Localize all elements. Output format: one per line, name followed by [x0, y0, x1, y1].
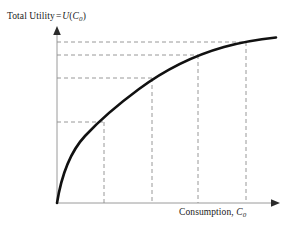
y-axis-label-close-paren: ) [83, 11, 86, 21]
utility-curve [57, 38, 276, 204]
y-axis-label-prefix: Total Utility [7, 11, 55, 21]
chart-figure: Total Utility=U(C0) Consumption, C0 [0, 0, 287, 226]
x-axis-arrow-icon [271, 199, 280, 207]
y-axis-label: Total Utility=U(C0) [7, 11, 86, 23]
x-axis-label-var-subscript: 0 [243, 211, 247, 219]
y-axis-arrow-icon [53, 26, 61, 35]
dashed-guides-horizontal [57, 42, 246, 122]
utility-curve-plot [0, 0, 287, 226]
axes-group [53, 26, 280, 207]
x-axis-label: Consumption, C0 [179, 207, 246, 219]
x-axis-label-prefix: Consumption, [179, 207, 234, 217]
